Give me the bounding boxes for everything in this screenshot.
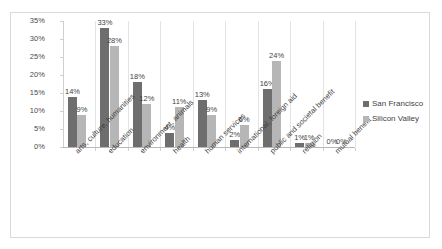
y-axis-tick-label: 35% — [11, 17, 45, 25]
bar-value-label: 24% — [267, 51, 286, 60]
y-axis-tick-label: 0% — [11, 143, 45, 151]
bar-value-label: 12% — [137, 94, 156, 103]
legend-item[interactable]: San Francisco — [363, 96, 433, 111]
bar-value-label: 28% — [105, 36, 124, 45]
bar-san-francisco — [165, 133, 174, 147]
legend-swatch-icon — [363, 116, 369, 122]
bar-value-label: 33% — [95, 18, 114, 27]
bar-group: 13%9% — [193, 21, 225, 147]
bar-value-label: 14% — [63, 87, 82, 96]
bar-silicon-valley — [110, 46, 119, 147]
bar-value-label: 9% — [202, 105, 221, 114]
plot-area: 14%9%33%28%18%12%4%11%13%9%2%6%16%24%1%1… — [63, 21, 355, 147]
bar-value-label: 9% — [72, 105, 91, 114]
bar-san-francisco — [133, 82, 142, 147]
y-axis-tick-label: 5% — [11, 125, 45, 133]
bar-value-label: 13% — [193, 90, 212, 99]
y-axis-tick-label: 20% — [11, 71, 45, 79]
y-axis-tick-label: 10% — [11, 107, 45, 115]
chart-container: 35%30%25%20%15%10%5%0% 14%9%33%28%18%12%… — [10, 12, 430, 238]
legend-label: Silicon Valley — [372, 114, 419, 123]
y-axis: 35%30%25%20%15%10%5%0% — [11, 17, 45, 147]
y-axis-tick-label: 15% — [11, 89, 45, 97]
bar-group: 14%9% — [63, 21, 95, 147]
chart-legend: San FranciscoSilicon Valley — [363, 96, 433, 126]
y-axis-tick-mark — [60, 147, 63, 148]
bar-group: 0%0% — [323, 21, 355, 147]
legend-swatch-icon — [363, 101, 369, 107]
y-axis-tick-label: 30% — [11, 35, 45, 43]
bar-value-label: 18% — [128, 72, 147, 81]
x-axis-category-labels: arts, culture, humanitieseducationenviro… — [63, 149, 363, 241]
y-axis-tick-label: 25% — [11, 53, 45, 61]
legend-item[interactable]: Silicon Valley — [363, 111, 433, 126]
legend-label: San Francisco — [372, 99, 423, 108]
